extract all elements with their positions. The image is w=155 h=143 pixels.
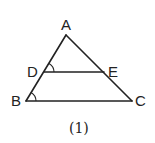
angle-mark-d-icon [49,64,54,73]
label-d: D [27,63,38,80]
figure-caption: (1) [69,120,89,136]
label-b: B [11,92,21,109]
triangle-diagram: A D E B C (1) [0,0,155,143]
label-c: C [135,92,146,109]
label-e: E [108,63,118,80]
segment-ac [66,35,132,101]
angle-mark-b-icon [31,93,36,102]
label-a: A [61,16,71,33]
